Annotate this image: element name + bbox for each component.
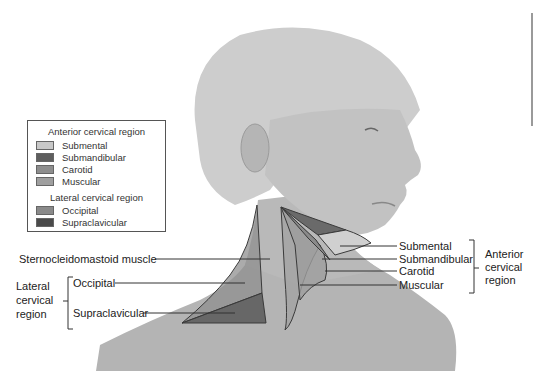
legend-label: Occipital	[62, 205, 98, 216]
legend-item-carotid: Carotid	[36, 164, 93, 175]
label-carotid: Carotid	[399, 265, 434, 277]
ear	[241, 124, 269, 172]
label-supraclavicular: Supraclavicular	[73, 307, 148, 319]
swatch-muscular	[36, 177, 54, 186]
bracket-lateral	[63, 277, 73, 329]
bracket-anterior	[469, 240, 479, 293]
legend-item-submental: Submental	[36, 140, 107, 151]
label-muscular: Muscular	[399, 279, 444, 291]
legend: Anterior cervical region Submental Subma…	[27, 120, 166, 232]
legend-label: Submental	[62, 140, 107, 151]
legend-item-occipital: Occipital	[36, 205, 98, 216]
legend-item-supraclavicular: Supraclavicular	[36, 217, 127, 228]
swatch-carotid	[36, 165, 54, 174]
swatch-submental	[36, 141, 54, 150]
label-lateral-line1: Lateral	[16, 280, 50, 292]
label-lateral-line2: cervical	[16, 294, 53, 306]
legend-lateral-title: Lateral cervical region	[28, 192, 165, 203]
legend-item-muscular: Muscular	[36, 176, 101, 187]
legend-label: Muscular	[62, 176, 101, 187]
legend-label: Submandibular	[62, 152, 126, 163]
label-sternocleidomastoid: Sternocleidomastoid muscle	[19, 253, 157, 265]
label-submental: Submental	[399, 240, 452, 252]
swatch-occipital	[36, 206, 54, 215]
swatch-supraclavicular	[36, 218, 54, 227]
swatch-submandibular	[36, 153, 54, 162]
legend-anterior-title: Anterior cervical region	[28, 126, 165, 137]
legend-label: Carotid	[62, 164, 93, 175]
label-submandibular: Submandibular	[399, 253, 473, 265]
label-anterior-line1: Anterior	[485, 248, 524, 260]
label-lateral-line3: region	[16, 308, 47, 320]
label-occipital: Occipital	[73, 277, 115, 289]
legend-label: Supraclavicular	[62, 217, 127, 228]
legend-item-submandibular: Submandibular	[36, 152, 126, 163]
page-divider-line	[531, 13, 533, 126]
label-anterior-line3: region	[485, 274, 516, 286]
label-anterior-line2: cervical	[485, 261, 522, 273]
